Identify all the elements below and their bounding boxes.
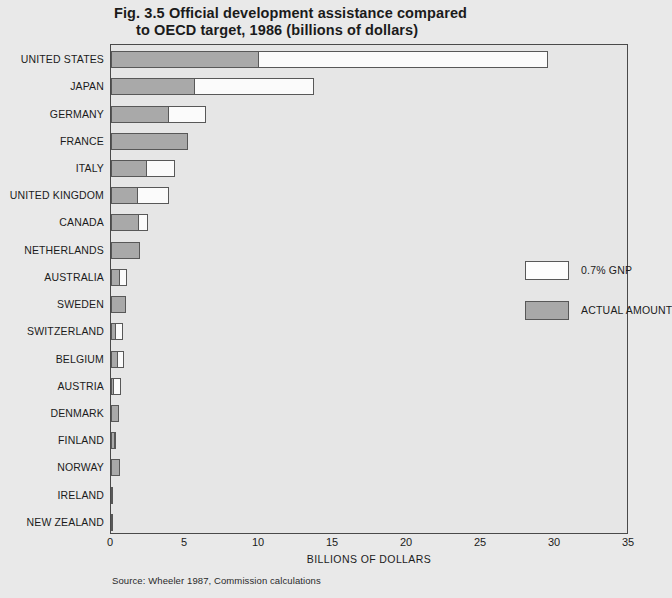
bar-group [111, 378, 629, 395]
x-axis-title: BILLIONS OF DOLLARS [110, 553, 628, 565]
category-label: IRELAND [57, 489, 104, 501]
bar-actual-amount [111, 78, 195, 95]
category-label: NETHERLANDS [24, 244, 104, 256]
bar-actual-amount [111, 378, 114, 395]
category-label: AUSTRALIA [44, 271, 104, 283]
category-label: AUSTRIA [57, 380, 104, 392]
bar-actual-amount [111, 269, 120, 286]
figure-title-line2: to OECD target, 1986 (billions of dollar… [114, 22, 534, 39]
source-note: Source: Wheeler 1987, Commission calcula… [112, 575, 321, 586]
category-label: FINLAND [58, 434, 104, 446]
category-label: FRANCE [60, 135, 104, 147]
bar-group [111, 405, 629, 422]
legend-swatch-actual-icon [525, 301, 569, 320]
bar-actual-amount [111, 323, 116, 340]
x-tick-label: 10 [252, 536, 264, 548]
bar-actual-amount [111, 160, 147, 177]
bar-actual-amount [111, 296, 126, 313]
bar-actual-amount [111, 242, 140, 259]
category-label: DENMARK [50, 407, 104, 419]
bar-actual-amount [111, 351, 118, 368]
legend-label-target: 0.7% GNP [581, 264, 632, 276]
category-label: GERMANY [50, 108, 104, 120]
bar-group [111, 160, 629, 177]
bar-group [111, 242, 629, 259]
bar-group [111, 106, 629, 123]
bar-group [111, 78, 629, 95]
plot-area: 0.7% GNP ACTUAL AMOUNT [110, 44, 628, 534]
bar-group [111, 187, 629, 204]
bar-actual-amount [111, 487, 113, 504]
bar-actual-amount [111, 106, 169, 123]
bar-actual-amount [111, 514, 113, 531]
bar-group [111, 133, 629, 150]
bar-actual-amount [111, 187, 138, 204]
bar-group [111, 214, 629, 231]
bar-actual-amount [111, 51, 259, 68]
bar-actual-amount [111, 432, 115, 449]
category-label: UNITED STATES [21, 53, 104, 65]
x-tick-label: 35 [622, 536, 634, 548]
category-label: BELGIUM [56, 353, 104, 365]
x-tick-label: 25 [474, 536, 486, 548]
x-tick-label: 30 [548, 536, 560, 548]
figure-title-line1: Fig. 3.5 Official development assistance… [114, 5, 467, 21]
legend-swatch-target-icon [525, 261, 569, 280]
category-label: CANADA [59, 216, 104, 228]
x-tick-label: 0 [107, 536, 113, 548]
category-label: UNITED KINGDOM [10, 189, 104, 201]
bar-group [111, 487, 629, 504]
category-axis-labels: UNITED STATESJAPANGERMANYFRANCEITALYUNIT… [0, 44, 104, 534]
category-label: NEW ZEALAND [27, 516, 105, 528]
bar-actual-amount [111, 405, 119, 422]
figure-title: Fig. 3.5 Official development assistance… [114, 5, 534, 39]
bar-group [111, 459, 629, 476]
x-tick-label: 15 [326, 536, 338, 548]
bar-group [111, 323, 629, 340]
bar-group [111, 432, 629, 449]
bar-group [111, 51, 629, 68]
category-label: ITALY [76, 162, 104, 174]
bar-actual-amount [111, 133, 188, 150]
bar-group [111, 514, 629, 531]
bar-actual-amount [111, 214, 139, 231]
bar-group [111, 351, 629, 368]
category-label: SWITZERLAND [27, 325, 104, 337]
bar-actual-amount [111, 459, 120, 476]
category-label: JAPAN [70, 80, 104, 92]
category-label: SWEDEN [57, 298, 104, 310]
category-label: NORWAY [57, 461, 104, 473]
legend-label-actual: ACTUAL AMOUNT [581, 304, 672, 316]
x-tick-label: 20 [400, 536, 412, 548]
x-tick-label: 5 [181, 536, 187, 548]
